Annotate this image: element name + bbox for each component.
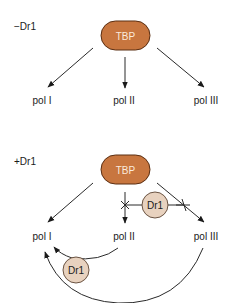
dr1-node-lower: Dr1 xyxy=(63,257,89,283)
pol-iii-label: pol III xyxy=(194,231,218,242)
pol-ii-label: pol II xyxy=(113,95,135,106)
panel-minus-dr1: −Dr1 TBP pol I pol II pol III xyxy=(14,21,218,106)
tbp-label: TBP xyxy=(116,31,136,42)
condition-label-minus-dr1: −Dr1 xyxy=(14,21,36,32)
arrow-tbp-to-pol-i xyxy=(48,183,93,222)
arrow-tbp-to-pol-iii xyxy=(157,48,204,87)
pol-i-label: pol I xyxy=(33,231,52,242)
panel-plus-dr1: +Dr1 TBP Dr1 pol I pol II pol III xyxy=(14,155,218,303)
arrow-tbp-to-pol-i xyxy=(48,48,93,87)
pol-i-label: pol I xyxy=(33,95,52,106)
tbp-node: TBP xyxy=(101,155,150,184)
dr1-label: Dr1 xyxy=(147,200,164,211)
pol-ii-label: pol II xyxy=(113,231,135,242)
pol-iii-label: pol III xyxy=(194,95,218,106)
curved-arrow-pol-ii-to-pol-i xyxy=(54,247,118,259)
dr1-label: Dr1 xyxy=(68,265,85,276)
condition-label-plus-dr1: +Dr1 xyxy=(14,156,36,167)
dr1-node-upper: Dr1 xyxy=(142,192,168,218)
tbp-label: TBP xyxy=(116,165,136,176)
dr1-regulation-diagram: −Dr1 TBP pol I pol II pol III +Dr1 TBP xyxy=(0,0,231,303)
tbp-node: TBP xyxy=(101,21,150,50)
